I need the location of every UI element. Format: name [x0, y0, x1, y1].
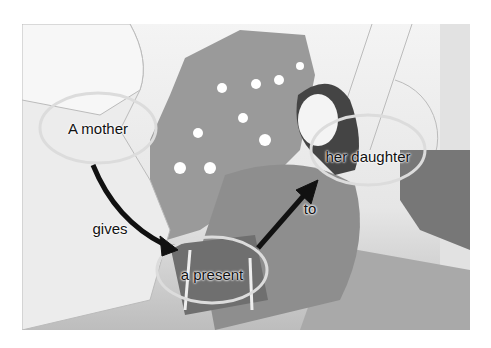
verb-label: gives	[92, 220, 127, 237]
illustration-scene	[22, 24, 470, 330]
recipient-label: her daughter	[325, 148, 410, 165]
object-label: a present	[181, 266, 244, 283]
preposition-label: to	[304, 200, 317, 217]
daughter-face	[298, 94, 338, 146]
scene-artwork	[22, 24, 470, 330]
subject-label: A mother	[68, 120, 128, 137]
dark-background-area	[400, 150, 470, 250]
